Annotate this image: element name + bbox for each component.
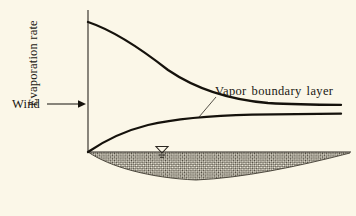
leader-line-icon xyxy=(199,97,216,117)
y-axis-label: Evaporation rate xyxy=(27,9,40,117)
vapor-boundary-layer-curve xyxy=(88,114,341,152)
figure-canvas xyxy=(0,0,356,216)
vapor-boundary-layer-label: Vapor boundary layer xyxy=(215,85,333,98)
wind-arrow-icon xyxy=(47,100,86,108)
subsurface-hatched-band xyxy=(88,152,350,180)
evaporation-boundary-layer-figure: Wind Evaporation rate Vapor boundary lay… xyxy=(0,0,356,216)
